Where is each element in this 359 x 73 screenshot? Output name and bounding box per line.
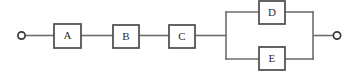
diagram-canvas: A B C D E	[0, 0, 359, 73]
block-b[interactable]: B	[113, 25, 139, 48]
block-a-label: A	[63, 29, 71, 41]
right-terminal	[333, 32, 340, 39]
block-diagram: A B C D E	[0, 0, 359, 73]
block-b-label: B	[122, 30, 130, 42]
block-d-label: D	[268, 6, 276, 18]
block-e-label: E	[269, 52, 276, 64]
left-terminal	[18, 32, 25, 39]
block-c-label: C	[178, 30, 186, 42]
block-e[interactable]: E	[259, 47, 285, 70]
block-a[interactable]: A	[54, 24, 81, 48]
block-c[interactable]: C	[169, 25, 195, 48]
block-d[interactable]: D	[259, 1, 285, 24]
